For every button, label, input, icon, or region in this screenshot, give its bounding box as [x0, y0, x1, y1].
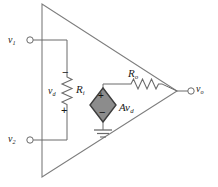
input-resistor-zigzag — [62, 74, 72, 108]
input-terminal-v2-node[interactable] — [27, 137, 33, 143]
wire-ro-to-apex — [162, 84, 177, 91]
differential-voltage-label-vd: vd — [48, 86, 56, 97]
circuit-schematic-svg — [0, 0, 218, 187]
amplifier-triangle — [42, 4, 177, 177]
input-label-v2: v2 — [8, 134, 16, 145]
dependent-source-label-avd: Avd — [119, 102, 134, 115]
vd-minus-polarity: − — [62, 67, 68, 78]
input-resistor-label-ri: Ri — [76, 84, 85, 97]
vd-plus-polarity: + — [61, 105, 67, 116]
output-terminal-vo-node[interactable] — [188, 88, 194, 94]
input-terminal-v1-node[interactable] — [27, 37, 33, 43]
output-label-vo: vo — [196, 84, 204, 95]
circuit-diagram-canvas: v1 v2 vo vd Ri Ro Avd − + + − — [0, 0, 218, 187]
input-label-v1: v1 — [8, 35, 16, 46]
source-minus-polarity: − — [99, 107, 105, 118]
output-resistor-label-ro: Ro — [128, 68, 138, 81]
source-plus-polarity: + — [98, 91, 104, 101]
